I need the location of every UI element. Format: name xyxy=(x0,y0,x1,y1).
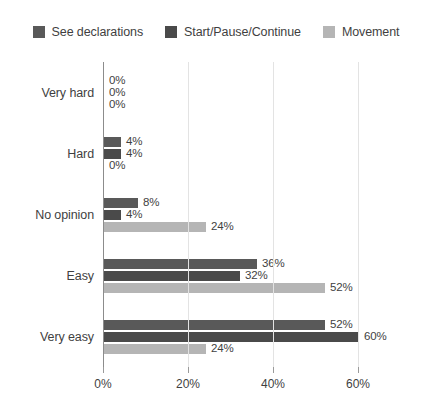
legend-swatch-icon xyxy=(33,26,45,38)
bar-value-label: 52% xyxy=(330,319,353,331)
chart-legend: See declarationsStart/Pause/ContinueMove… xyxy=(0,26,432,39)
bar-group: No opinion8%4%24% xyxy=(103,184,375,245)
category-label: Hard xyxy=(67,147,94,161)
bar-row: 0% xyxy=(104,76,125,86)
x-axis-tick xyxy=(358,367,359,373)
x-axis-tick-label: 20% xyxy=(176,377,200,391)
gridline xyxy=(273,62,274,367)
legend-item-label: See declarations xyxy=(52,26,144,39)
bar[interactable] xyxy=(104,332,359,342)
bar-value-label: 0% xyxy=(109,160,125,172)
bar[interactable] xyxy=(104,198,138,208)
bar-value-label: 4% xyxy=(126,148,142,160)
bar[interactable] xyxy=(104,283,325,293)
bar-row: 52% xyxy=(104,320,353,330)
x-axis-tick-label: 60% xyxy=(346,377,370,391)
gridline xyxy=(188,62,189,367)
bar[interactable] xyxy=(104,320,325,330)
bar-row: 36% xyxy=(104,259,285,269)
x-axis-tick xyxy=(273,367,274,373)
bar-row: 60% xyxy=(104,332,387,342)
bar-row: 24% xyxy=(104,344,234,354)
plot-area: Very hard0%0%0%Hard4%4%0%No opinion8%4%2… xyxy=(103,62,375,367)
bar[interactable] xyxy=(104,149,121,159)
bar-value-label: 4% xyxy=(126,209,142,221)
bar[interactable] xyxy=(104,137,121,147)
bar-value-label: 60% xyxy=(364,331,387,343)
bar-row: 4% xyxy=(104,137,142,147)
legend-swatch-icon xyxy=(165,26,177,38)
bar-value-label: 0% xyxy=(109,87,125,99)
category-label: Easy xyxy=(67,269,94,283)
bar-value-label: 32% xyxy=(245,270,268,282)
bar-row: 0% xyxy=(104,88,125,98)
category-label: Very easy xyxy=(40,330,94,344)
bar-group: Hard4%4%0% xyxy=(103,123,375,184)
bar-row: 4% xyxy=(104,149,142,159)
bar-row: 24% xyxy=(104,222,234,232)
bar-value-label: 0% xyxy=(109,75,125,87)
bar-group: Easy36%32%52% xyxy=(103,245,375,306)
x-axis-tick-label: 40% xyxy=(261,377,285,391)
bar-row: 32% xyxy=(104,271,268,281)
grouped-bar-chart: See declarationsStart/Pause/ContinueMove… xyxy=(0,0,432,416)
bar-value-label: 0% xyxy=(109,99,125,111)
x-axis-tick xyxy=(188,367,189,373)
legend-item[interactable]: Movement xyxy=(323,26,400,39)
x-axis: 0%20%40%60% xyxy=(103,367,375,373)
bar[interactable] xyxy=(104,259,257,269)
bar-row: 52% xyxy=(104,283,353,293)
bar-value-label: 24% xyxy=(211,221,234,233)
bar[interactable] xyxy=(104,222,206,232)
bar-group: Very easy52%60%24% xyxy=(103,306,375,367)
bar-row: 0% xyxy=(104,100,125,110)
category-label: No opinion xyxy=(35,208,94,222)
legend-item-label: Movement xyxy=(342,26,400,39)
x-axis-tick-label: 0% xyxy=(94,377,111,391)
bar-value-label: 8% xyxy=(143,197,159,209)
bar[interactable] xyxy=(104,271,240,281)
bar-value-label: 52% xyxy=(330,282,353,294)
category-label: Very hard xyxy=(41,86,94,100)
bar-group: Very hard0%0%0% xyxy=(103,62,375,123)
bar-row: 8% xyxy=(104,198,159,208)
bar-value-label: 24% xyxy=(211,343,234,355)
bar-value-label: 4% xyxy=(126,136,142,148)
legend-item[interactable]: Start/Pause/Continue xyxy=(165,26,301,39)
x-axis-tick xyxy=(103,367,104,373)
bar[interactable] xyxy=(104,344,206,354)
legend-swatch-icon xyxy=(323,26,335,38)
bar-row: 4% xyxy=(104,210,142,220)
bar[interactable] xyxy=(104,210,121,220)
legend-item[interactable]: See declarations xyxy=(33,26,144,39)
legend-item-label: Start/Pause/Continue xyxy=(184,26,301,39)
gridline xyxy=(358,62,359,367)
bar-row: 0% xyxy=(104,161,125,171)
